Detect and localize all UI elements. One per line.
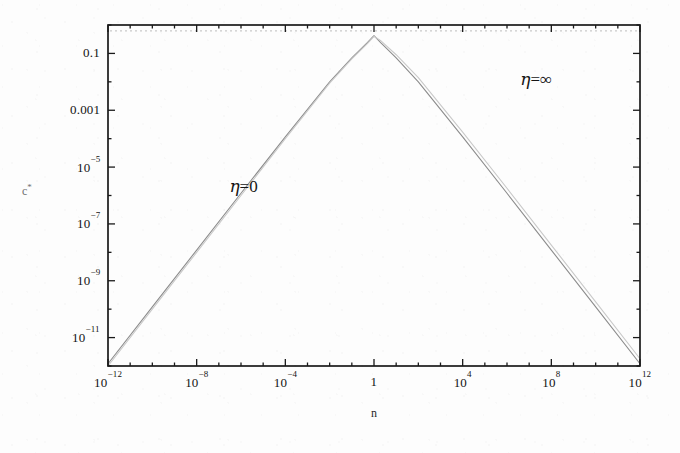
tick-marks <box>108 25 640 366</box>
curve-group <box>108 36 640 366</box>
curve-annotation-0: η=0 <box>229 176 257 197</box>
y-tick-label: 10−5 <box>77 159 100 176</box>
x-tick-label: 10−8 <box>185 374 208 391</box>
y-axis-title-prime: * <box>27 182 32 192</box>
eta-value: =∞ <box>531 70 553 89</box>
eta-symbol: η <box>229 176 239 196</box>
y-tick-label: 10−9 <box>77 272 100 289</box>
y-tick-label: 0.1 <box>83 45 100 61</box>
eta-value: =0 <box>240 177 258 196</box>
y-tick-label: 10−7 <box>77 215 100 232</box>
x-tick-label: 10−4 <box>274 374 297 391</box>
y-axis-title: c* <box>22 182 32 199</box>
y-tick-label: 10−11 <box>72 329 100 346</box>
x-tick-label: 104 <box>454 374 472 391</box>
x-tick-label: 108 <box>542 374 560 391</box>
curve-annotation-1: η=∞ <box>520 69 552 90</box>
x-axis-title: n <box>371 406 377 421</box>
curve-series-1 <box>108 36 640 366</box>
y-tick-label: 0.001 <box>70 102 100 118</box>
x-tick-label: 1 <box>371 374 378 390</box>
plot-frame <box>108 25 640 366</box>
figure-container: 10−1210−810−411041081012 0.10.00110−510−… <box>0 0 680 453</box>
curve-series-0 <box>108 36 640 364</box>
eta-symbol: η <box>520 69 530 89</box>
x-tick-label: 10−12 <box>94 374 122 391</box>
x-tick-label: 1012 <box>629 374 652 391</box>
